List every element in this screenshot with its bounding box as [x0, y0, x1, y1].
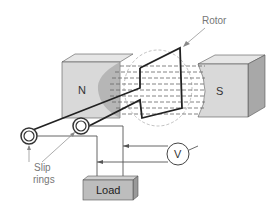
load-label: Load	[96, 184, 120, 196]
slip-rings-label-line1: Slip	[34, 162, 51, 173]
rotor-pointer	[185, 28, 205, 45]
slip-rings-label-line2: rings	[33, 174, 55, 185]
arrow-to-voltmeter-top	[123, 144, 129, 148]
rotor-label: Rotor	[202, 15, 227, 26]
south-pole-label: S	[216, 85, 223, 97]
arrow-to-voltmeter-bottom	[97, 160, 103, 164]
slip-ring-left	[21, 128, 37, 144]
voltmeter-label: V	[174, 148, 182, 160]
circuit-wires	[37, 126, 168, 178]
south-magnet	[198, 55, 265, 117]
voltmeter-lead	[189, 146, 198, 150]
generator-diagram: N S Rotor	[0, 0, 277, 215]
north-pole-label: N	[78, 84, 86, 96]
slip-ring-pointer-right	[42, 133, 74, 162]
slip-ring-arrowhead-left	[27, 145, 31, 150]
slip-ring-right	[73, 118, 89, 134]
